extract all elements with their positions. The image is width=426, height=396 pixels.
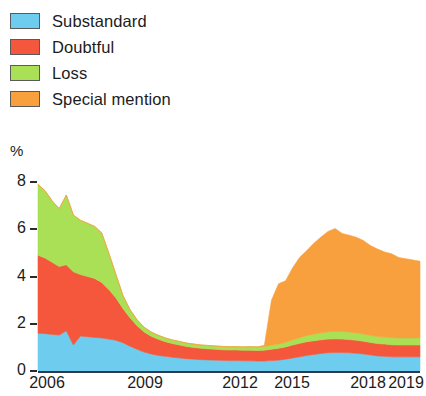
x-tick-label-2012: 2012 — [222, 374, 258, 392]
x-tick-label-2018: 2018 — [350, 374, 386, 392]
y-tick-label-0: 0 — [6, 361, 26, 379]
x-tick-label-2015: 2015 — [274, 374, 310, 392]
plot-area: 02468200620092012201520182019 — [0, 0, 426, 396]
y-tick-label-6: 6 — [6, 219, 26, 237]
y-tick-label-4: 4 — [6, 267, 26, 285]
y-tick-mark-0 — [30, 370, 37, 372]
y-tick-mark-8 — [30, 181, 37, 183]
y-tick-label-2: 2 — [6, 314, 26, 332]
x-axis-baseline — [38, 371, 420, 373]
y-tick-mark-2 — [30, 323, 37, 325]
y-tick-mark-6 — [30, 228, 37, 230]
x-tick-label-2006: 2006 — [29, 374, 65, 392]
chart-page: Substandard Doubtful Loss Special mentio… — [0, 0, 426, 396]
stacked-area-chart — [0, 0, 426, 396]
y-tick-label-8: 8 — [6, 172, 26, 190]
x-tick-label-2009: 2009 — [127, 374, 163, 392]
y-tick-mark-4 — [30, 276, 37, 278]
x-tick-label-2019: 2019 — [388, 374, 424, 392]
